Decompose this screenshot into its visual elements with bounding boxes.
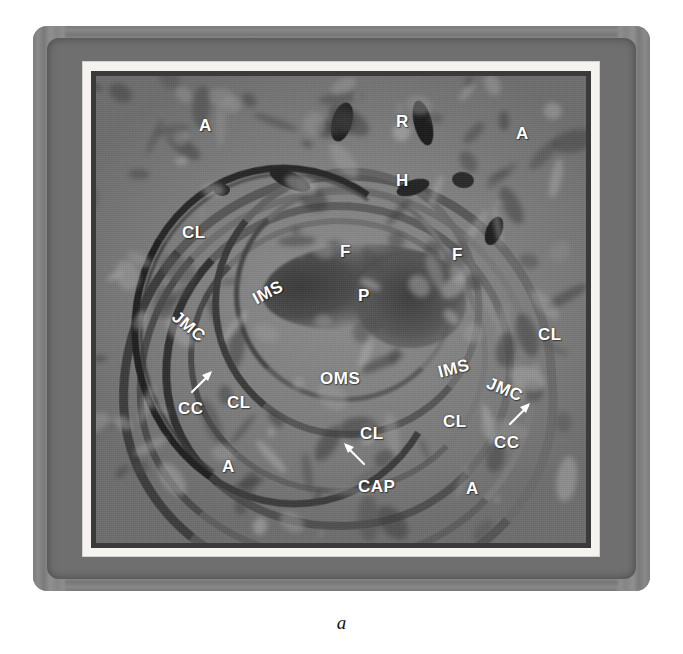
micrograph-label-cl-right-lower: CL bbox=[443, 413, 467, 430]
micrograph-label-cc-right: CC bbox=[494, 434, 520, 451]
micrograph-label-a-top-right: A bbox=[516, 125, 529, 142]
micrograph-label-cl-upper-left: CL bbox=[182, 224, 206, 241]
micrograph-label-a-top-left: A bbox=[199, 117, 212, 134]
micrograph-label-cc-left: CC bbox=[178, 400, 204, 417]
panel-caption: a bbox=[0, 612, 683, 634]
film-grain-overlay bbox=[96, 76, 586, 543]
micrograph-label-r-top: R bbox=[396, 113, 409, 130]
micrograph-plate bbox=[33, 26, 650, 591]
micrograph-label-a-bottom-left: A bbox=[222, 458, 235, 475]
micrograph-label-cl-bottom: CL bbox=[360, 425, 384, 442]
micrograph-label-f-center: F bbox=[340, 243, 351, 260]
specimen-image bbox=[96, 76, 586, 543]
micrograph-label-oms-center: OMS bbox=[320, 370, 360, 387]
micrograph-label-a-bottom-right: A bbox=[466, 480, 479, 497]
micrograph-label-h-top: H bbox=[396, 172, 409, 189]
micrograph-label-p-center: P bbox=[358, 287, 370, 304]
figure-root: ARAHCLFFIMSPJMCCLOMSIMSJMCCCCLCLCLCCACAP… bbox=[0, 0, 683, 654]
micrograph-label-cl-left-lower: CL bbox=[227, 394, 251, 411]
micrograph-label-f-right: F bbox=[452, 246, 463, 263]
micrograph-label-cap-bottom: CAP bbox=[358, 478, 395, 495]
micrograph-label-cl-right-upper: CL bbox=[538, 326, 562, 343]
